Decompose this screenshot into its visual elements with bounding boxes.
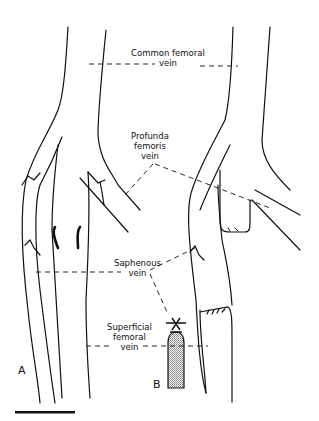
label-line: vein xyxy=(131,151,169,161)
label-line: vein xyxy=(131,58,205,68)
label-superficial-femoral-vein: Superficial femoral vein xyxy=(107,322,152,352)
label-line: vein xyxy=(107,342,152,352)
label-profunda-femoris-vein: Profunda femoris vein xyxy=(131,131,169,161)
label-line: Common femoral xyxy=(131,48,205,58)
scale-bar xyxy=(15,411,75,414)
label-line: Superficial xyxy=(107,322,152,332)
ligated-vein xyxy=(168,332,184,388)
label-line: Profunda xyxy=(131,131,169,141)
label-line: femoral xyxy=(107,332,152,342)
label-line: femoris xyxy=(131,141,169,151)
panel-label-b: B xyxy=(153,378,161,391)
label-common-femoral-vein: Common femoral vein xyxy=(131,48,205,68)
label-saphenous-vein: Saphenous vein xyxy=(114,258,161,278)
panel-b-drawing xyxy=(189,27,300,402)
label-line: Saphenous xyxy=(114,258,161,268)
label-line: vein xyxy=(114,268,161,278)
panel-label-a: A xyxy=(18,364,26,377)
